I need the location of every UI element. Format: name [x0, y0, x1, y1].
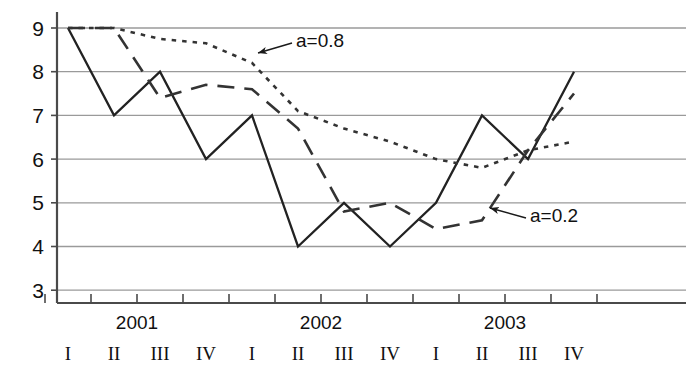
quarter-label-2: III: [151, 343, 170, 364]
quarter-label-10: III: [519, 343, 538, 364]
quarter-labels-group: IIIIIIIVIIIIIIIVIIIIIIIV: [65, 343, 584, 364]
quarter-label-11: IV: [564, 343, 584, 364]
quarter-label-5: II: [292, 343, 305, 364]
y-tick-label-5: 5: [32, 191, 44, 214]
y-tick-label-6: 6: [32, 148, 44, 171]
series-line-a-0-2: [68, 28, 574, 229]
annot-a08-label: a=0.8: [296, 30, 344, 51]
quarter-label-7: IV: [380, 343, 400, 364]
quarter-label-3: IV: [196, 343, 216, 364]
annot-a08-arrow: [258, 43, 292, 53]
y-tick-label-4: 4: [32, 235, 44, 258]
annot-a02-label: a=0.2: [530, 205, 578, 226]
chart-container: 3456789 200120022003 IIIIIIIVIIIIIIIVIII…: [0, 0, 686, 368]
year-label-2003: 2003: [484, 312, 526, 333]
quarter-label-8: I: [433, 343, 439, 364]
y-tick-label-9: 9: [32, 17, 44, 40]
gridlines-group: [57, 28, 686, 290]
y-tick-label-8: 8: [32, 60, 44, 83]
year-labels-group: 200120022003: [116, 312, 526, 333]
quarter-label-0: I: [65, 343, 71, 364]
y-tick-label-7: 7: [32, 104, 44, 127]
quarter-label-1: II: [108, 343, 121, 364]
y-tick-label-3: 3: [32, 279, 44, 302]
quarter-label-4: I: [249, 343, 255, 364]
annotations-group: a=0.8a=0.2: [258, 30, 578, 226]
axes-group: [57, 12, 686, 303]
y-axis-tick-labels-group: 3456789: [32, 17, 57, 302]
quarter-label-9: II: [476, 343, 489, 364]
data-series-group: [68, 28, 574, 247]
year-label-2001: 2001: [116, 312, 158, 333]
x-axis-ticks-group: [45, 294, 597, 303]
year-label-2002: 2002: [300, 312, 342, 333]
quarter-label-6: III: [335, 343, 354, 364]
line-chart: 3456789 200120022003 IIIIIIIVIIIIIIIVIII…: [0, 0, 686, 368]
annot-a02-arrow: [490, 208, 526, 218]
series-line-actual: [68, 28, 574, 247]
